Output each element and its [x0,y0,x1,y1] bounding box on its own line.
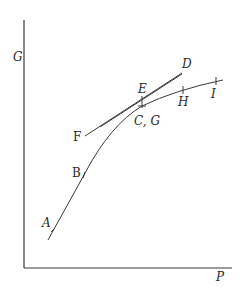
label-i: I [210,87,216,101]
label-d: D [181,57,192,71]
tick-b [83,172,85,178]
y-axis-label: G [13,50,23,64]
label-b: B [72,166,81,180]
label-h: H [177,95,189,109]
x-axis-label: P [215,270,225,284]
label-f: F [73,130,81,144]
label-cg: C, G [134,114,160,128]
diagram: G P A B C, G D E F H I [0,0,244,296]
label-e: E [137,82,147,96]
label-a: A [41,216,51,230]
